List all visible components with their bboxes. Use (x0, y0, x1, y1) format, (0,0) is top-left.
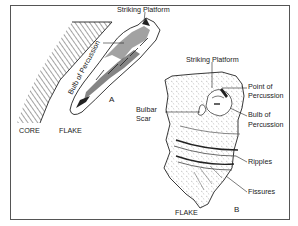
leader-line (226, 176, 247, 192)
flake-anatomy-diagram: Striking Platform Bulb of Percussion A C… (0, 0, 298, 226)
bulbar-scar-label-line2: Scar (136, 114, 151, 123)
panel-b-letter: B (234, 205, 239, 214)
core-label: CORE (19, 126, 40, 135)
leader-line (236, 156, 247, 162)
point-of-percussion-label-line2: Percussion (248, 91, 284, 100)
panel-b: Striking Platform Point of Percussion Bu… (136, 55, 284, 217)
panel-a-letter: A (109, 95, 115, 104)
point-of-percussion-label-line1: Point of (248, 82, 272, 91)
striking-platform-label-b: Striking Platform (186, 55, 239, 64)
bulb-of-percussion-label-b-line2: Percussion (248, 120, 284, 129)
bulb-of-percussion-label-b-line1: Bulb of (248, 110, 270, 119)
flake-b-shape (164, 72, 244, 208)
fissures-label: Fissures (248, 187, 276, 196)
flake-label-b: FLAKE (175, 208, 198, 217)
bulbar-scar-label-line1: Bulbar (136, 105, 157, 114)
striking-platform-label-a: Striking Platform (117, 5, 170, 14)
flake-label-a: FLAKE (59, 126, 82, 135)
ripples-label: Ripples (248, 157, 272, 166)
